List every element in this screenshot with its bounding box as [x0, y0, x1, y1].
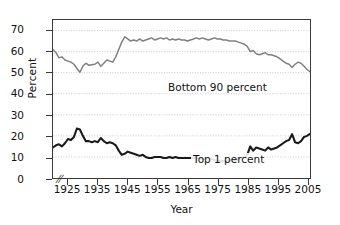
y-tick-label: 10: [0, 152, 24, 163]
x-tick-mark: [127, 179, 128, 185]
x-tick-mark: [278, 179, 279, 185]
y-tick-label: 70: [0, 24, 24, 35]
x-tick-mark: [97, 179, 98, 185]
y-tick-label: 30: [0, 110, 24, 121]
x-tick-mark: [157, 179, 158, 185]
x-tick-mark: [218, 179, 219, 185]
y-tick-label: 60: [0, 46, 24, 57]
y-tick-label: 0: [0, 174, 24, 185]
series-line-bottom-90-percent: [53, 37, 310, 72]
y-tick-label: 20: [0, 131, 24, 142]
y-tick-mark: [46, 179, 52, 180]
plot-area: Bottom 90 percent Top 1 percent: [52, 19, 311, 179]
series-label-bottom-90-percent: Bottom 90 percent: [166, 81, 269, 93]
x-tick-mark: [308, 179, 309, 185]
y-axis-title: Percent: [26, 38, 38, 118]
y-tick-label: 40: [0, 88, 24, 99]
x-tick-mark: [248, 179, 249, 185]
x-axis-title: Year: [52, 203, 311, 215]
x-tick-mark: [188, 179, 189, 185]
series-label-top-1-percent: Top 1 percent: [191, 153, 266, 165]
data-series-layer: [53, 20, 310, 178]
series-line-top-1-percent: [53, 128, 310, 161]
y-tick-label: 50: [0, 67, 24, 78]
chart-figure: Percent 010203040506070 1925193519451955…: [0, 0, 340, 225]
x-tick-mark: [67, 179, 68, 185]
